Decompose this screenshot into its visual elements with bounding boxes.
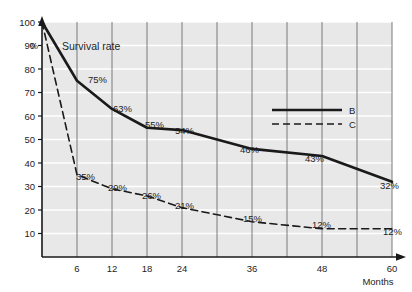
x-axis-arrow-icon [396,253,406,261]
y-tick-label: 10 [24,228,35,239]
y-tick-label: 50 [24,134,35,145]
survival-rate-chart: 100908070605040302010 6121824364860 % Mo… [0,0,412,292]
y-tick-label: 20 [24,205,35,216]
y-tick-label: 80 [24,64,35,75]
data-point-label: 35% [76,171,96,182]
plot-title: Survival rate [62,40,121,52]
data-point-label: 43% [305,153,325,164]
data-point-label: 55% [145,119,165,130]
data-point-label: 32% [380,180,400,191]
legend-label-b: B [349,105,355,116]
y-tick-label: 40 [24,158,35,169]
chart-canvas: 100908070605040302010 6121824364860 % Mo… [0,0,412,292]
x-tick-label: 60 [387,263,398,274]
data-point-label: 26% [142,190,162,201]
x-tick-label: 24 [177,263,188,274]
x-tick-label: 12 [107,263,118,274]
x-tick-label: 6 [74,263,79,274]
data-point-label: 46% [240,144,260,155]
legend-label-c: C [349,119,356,130]
data-point-label: 63% [113,103,133,114]
x-tick-label: 18 [142,263,153,274]
y-tick-label: 60 [24,111,35,122]
data-point-label: 75% [88,74,108,85]
data-point-label: 12% [383,226,403,237]
y-axis-unit-label: % [30,40,39,51]
y-tick-label: 100 [19,17,35,28]
x-axis-ticks: 6121824364860 [74,263,397,274]
data-point-label: 21% [175,200,195,211]
data-point-label: 54% [175,125,195,136]
x-axis-caption: Months [362,276,393,287]
y-tick-label: 70 [24,87,35,98]
data-point-label: 15% [243,213,263,224]
x-tick-label: 36 [247,263,258,274]
x-tick-label: 48 [317,263,328,274]
data-point-label: 12% [312,219,332,230]
data-point-label: 29% [108,182,128,193]
y-tick-label: 30 [24,181,35,192]
